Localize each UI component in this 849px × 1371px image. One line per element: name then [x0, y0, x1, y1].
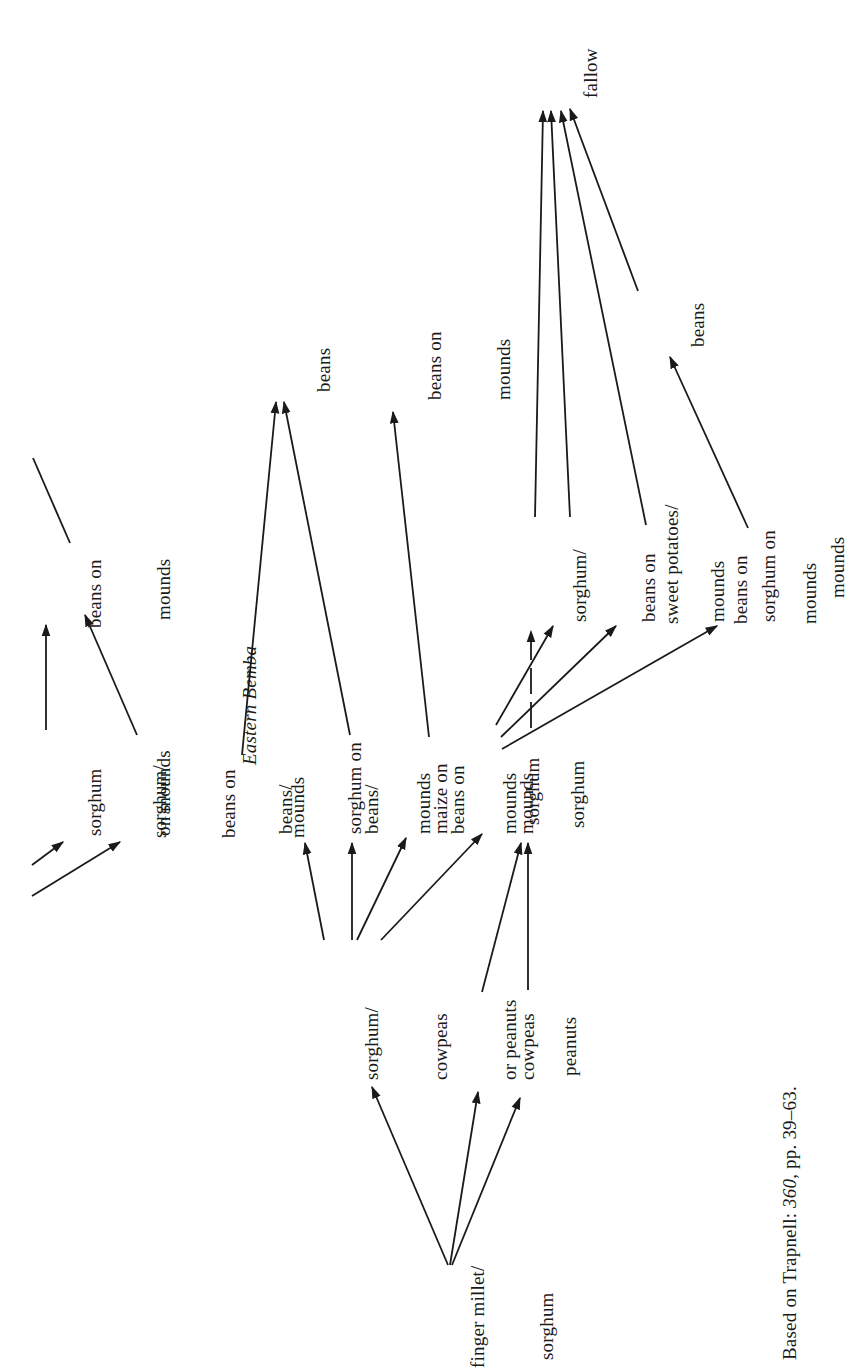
- arrow-cowpeas-to-sorghum2: [482, 843, 521, 992]
- node-peanuts: peanuts: [512, 1017, 604, 1076]
- caption-suffix: , pp. 39–63.: [779, 1086, 800, 1179]
- arrow-to-sorghum: [381, 834, 482, 940]
- arrow-top-to-sorghum-beans-on-mounds: [32, 842, 120, 896]
- arrow-beans-on-mounds-to-target: [393, 412, 429, 737]
- node-fallow: fallow: [533, 48, 625, 98]
- node-beans-right: beans: [640, 303, 732, 347]
- arrow-finger-millet-to-peanuts: [452, 1098, 520, 1265]
- arrow-finger-millet-to-sorghum-cowpeas: [372, 1087, 448, 1265]
- arrow-beans-maize-to-beans: [284, 402, 350, 735]
- caption-ref: 360: [779, 1179, 800, 1208]
- arrow-to-beans-sorghum-on-mounds: [305, 843, 324, 940]
- source-caption: Based on Trapnell: 360, pp. 39–63.: [732, 1086, 824, 1360]
- arrow-sorghum-on-mounds-to-beans: [670, 357, 748, 528]
- arrow-sorghum-to-sweet-potatoes: [501, 626, 616, 737]
- arrow-finger-millet-to-cowpeas: [450, 1092, 478, 1265]
- arrow-sorghum-to-sorghum-on-mounds: [502, 626, 717, 749]
- arrow-sweet-potatoes-to-fallow: [561, 111, 646, 525]
- arrow-sorghum-beans-to-beans-on-mounds: [85, 615, 137, 735]
- node-finger-millet-sorghum: finger millet/ sorghum: [420, 1265, 581, 1368]
- arrow-sorghum-to-sorghum-beans: [496, 626, 553, 725]
- arrow-top-to-sorghum-on-mounds: [32, 842, 63, 865]
- node-beans-on-mounds-top: beans on mounds: [37, 559, 198, 628]
- arrow-to-beans-on-mounds: [357, 838, 406, 940]
- node-beans-target: beans: [266, 348, 358, 392]
- arrow-sorghum-beans-to-fallow-1: [535, 111, 543, 517]
- caption-prefix: Based on Trapnell:: [779, 1208, 800, 1360]
- arrow-beans-on-mounds-continuation: [33, 458, 70, 543]
- node-sorghum-b: sorghum: [520, 760, 612, 828]
- node-sorghum-on-mounds-right: sorghum on mounds: [711, 530, 849, 622]
- arrow-beans-to-fallow: [570, 109, 638, 291]
- node-beans-on-mounds-target: beans on mounds: [377, 331, 538, 400]
- arrow-beans-on-mounds-to-fallow-2: [551, 111, 570, 517]
